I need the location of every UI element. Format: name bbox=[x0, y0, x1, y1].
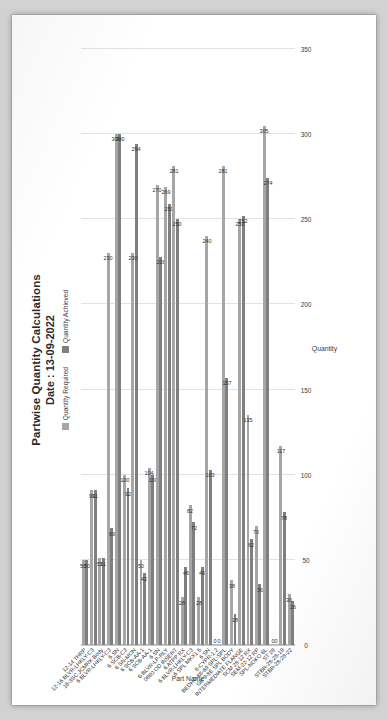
bar-quantity-achieved bbox=[192, 522, 195, 645]
bar-quantity-achieved bbox=[159, 257, 162, 645]
bar-quantity-achieved bbox=[143, 573, 146, 645]
bar-group: 5151 bbox=[97, 49, 105, 645]
value-axis-tick: 200 bbox=[301, 301, 315, 308]
data-label-achieved: 0 bbox=[275, 638, 278, 644]
chart-title: Partwise Quantity Calculations bbox=[29, 28, 43, 692]
chart-paper: Partwise Quantity Calculations Date : 13… bbox=[12, 15, 376, 705]
data-label-required: 70 bbox=[253, 529, 259, 535]
bar-group: 230294 bbox=[130, 49, 138, 645]
bar-group: 8272 bbox=[188, 49, 196, 645]
bar-quantity-achieved bbox=[94, 490, 97, 645]
plot-area: 05010015020025030035012-14 THRP505012-16… bbox=[81, 49, 295, 646]
data-label-required: 281 bbox=[169, 168, 178, 174]
bar-group: 2846 bbox=[196, 49, 204, 645]
bar-quantity-achieved bbox=[242, 216, 245, 645]
value-axis-tick: 300 bbox=[301, 131, 315, 138]
data-label-achieved: 0 bbox=[217, 638, 220, 644]
chart-legend: Quantity RequiredQuantity Achieved bbox=[62, 28, 69, 692]
legend-swatch-icon bbox=[62, 423, 69, 430]
bar-quantity-achieved bbox=[250, 539, 253, 645]
category-axis-title: Part Name bbox=[172, 675, 204, 682]
data-label-required: 30 bbox=[286, 597, 292, 603]
data-label-required: 305 bbox=[260, 127, 269, 133]
scanned-page-background: Partwise Quantity Calculations Date : 13… bbox=[0, 0, 388, 720]
data-label-required: 82 bbox=[187, 508, 193, 514]
bar-group: 269259 bbox=[163, 49, 171, 645]
bar-group: 5042 bbox=[139, 49, 147, 645]
data-label-required: 100 bbox=[120, 476, 129, 482]
bar-group: 10092 bbox=[122, 49, 130, 645]
value-axis-tick: 350 bbox=[301, 46, 315, 53]
bar-group: 3818 bbox=[229, 49, 237, 645]
bar-group: 281157 bbox=[221, 49, 229, 645]
bar-group: 250252 bbox=[237, 49, 245, 645]
bar-quantity-achieved bbox=[209, 470, 212, 645]
bar-quantity-achieved bbox=[110, 528, 113, 645]
bar-group: 5050 bbox=[81, 49, 89, 645]
data-label-required: 0 bbox=[214, 638, 217, 644]
bar-group: 9191 bbox=[89, 49, 97, 645]
chart-header: Partwise Quantity Calculations Date : 13… bbox=[29, 28, 57, 692]
bar-quantity-achieved bbox=[283, 512, 286, 645]
bar-group: 13562 bbox=[246, 49, 254, 645]
bar-group: 300300 bbox=[114, 49, 122, 645]
bar-group: 240103 bbox=[204, 49, 212, 645]
data-label-required: 117 bbox=[277, 447, 286, 453]
data-label-required: 28 bbox=[196, 600, 202, 606]
data-label-required: 269 bbox=[161, 188, 170, 194]
rotated-chart-canvas: Partwise Quantity Calculations Date : 13… bbox=[29, 28, 359, 692]
data-label-required: 230 bbox=[104, 255, 113, 261]
value-axis-tick: 100 bbox=[301, 471, 315, 478]
legend-item-1: Quantity Achieved bbox=[62, 290, 69, 353]
bar-quantity-achieved bbox=[118, 134, 121, 645]
bar-quantity-achieved bbox=[127, 488, 130, 645]
bar-quantity-achieved bbox=[151, 475, 154, 645]
bar-group: 00 bbox=[270, 49, 278, 645]
data-label-required: 28 bbox=[179, 600, 185, 606]
data-label-required: 281 bbox=[219, 168, 228, 174]
data-label-achieved: 26 bbox=[290, 604, 296, 610]
data-label-required: 104 bbox=[145, 469, 154, 475]
bar-quantity-achieved bbox=[176, 219, 179, 645]
bar-quantity-achieved bbox=[135, 144, 138, 645]
value-axis-tick: 0 bbox=[304, 642, 311, 649]
bar-group: 2846 bbox=[180, 49, 188, 645]
data-label-required: 135 bbox=[243, 417, 252, 423]
value-axis-title: Quantity bbox=[312, 345, 337, 352]
bar-quantity-achieved bbox=[85, 560, 88, 645]
data-label-required: 50 bbox=[138, 563, 144, 569]
bar-group: 270228 bbox=[155, 49, 163, 645]
bar-group: 11778 bbox=[279, 49, 287, 645]
bar-group: 305274 bbox=[262, 49, 270, 645]
data-label-required: 38 bbox=[229, 583, 235, 589]
value-axis-tick: 250 bbox=[301, 216, 315, 223]
bar-group: 104100 bbox=[147, 49, 155, 645]
value-axis-tick: 50 bbox=[302, 556, 312, 563]
legend-label: Quantity Required bbox=[62, 367, 69, 420]
data-label-required: 240 bbox=[202, 238, 211, 244]
data-label-required: 230 bbox=[128, 255, 137, 261]
bar-quantity-achieved bbox=[266, 178, 269, 645]
bar-group: 00 bbox=[213, 49, 221, 645]
legend-label: Quantity Achieved bbox=[62, 290, 69, 343]
value-axis-tick: 150 bbox=[301, 386, 315, 393]
bar-group: 281250 bbox=[172, 49, 180, 645]
bar-group: 7036 bbox=[254, 49, 262, 645]
chart-subtitle-date: Date : 13-09-2022 bbox=[43, 28, 57, 692]
bar-quantity-achieved bbox=[168, 204, 171, 645]
legend-item-0: Quantity Required bbox=[62, 367, 69, 430]
bar-quantity-achieved bbox=[102, 558, 105, 645]
bar-group: 3026 bbox=[287, 49, 295, 645]
bar-quantity-achieved bbox=[225, 378, 228, 645]
legend-swatch-icon bbox=[62, 346, 69, 353]
